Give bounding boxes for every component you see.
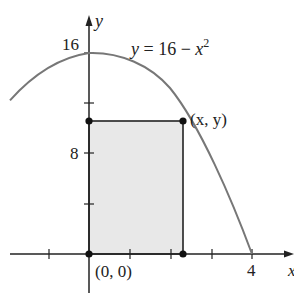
rect-bottom-right-point xyxy=(179,250,186,257)
diagram-canvas: 16 8 4 (0, 0) (x, y) y x y = 16 − x2 xyxy=(0,0,294,302)
y-tick-label-8: 8 xyxy=(70,144,79,163)
origin-point xyxy=(85,250,92,257)
function-label: y = 16 − x2 xyxy=(129,36,209,59)
function-label-eq: = 16 − xyxy=(139,39,195,59)
x-axis-arrow-icon xyxy=(284,251,294,258)
x-axis-label: x xyxy=(287,261,294,280)
y-axis-label: y xyxy=(93,11,103,31)
function-label-var: x xyxy=(194,39,203,59)
function-label-lhs: y xyxy=(129,39,139,59)
curve-point xyxy=(179,117,186,124)
rect-top-left-point xyxy=(85,117,92,124)
x-tick-label-4: 4 xyxy=(247,261,256,280)
function-label-exp: 2 xyxy=(203,36,209,50)
y-tick-label-16: 16 xyxy=(62,35,79,54)
inscribed-rectangle xyxy=(89,121,183,254)
point-xy-label: (x, y) xyxy=(190,110,227,129)
y-axis-arrow-icon xyxy=(86,15,93,26)
origin-label: (0, 0) xyxy=(95,262,132,281)
